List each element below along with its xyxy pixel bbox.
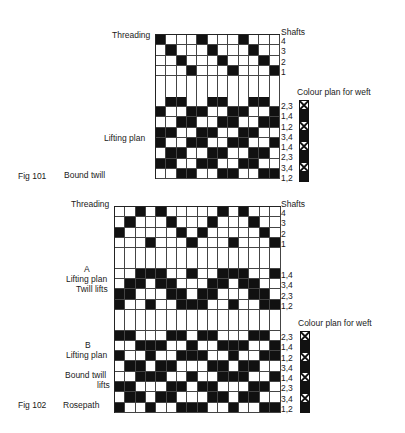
grid-cell-empty: [156, 238, 166, 248]
colour-black-swatch: [299, 151, 309, 161]
grid-cell-filled: [198, 331, 208, 341]
grid-cell-filled: [146, 403, 156, 413]
grid-cell-filled: [260, 351, 270, 361]
grid-cell-empty: [115, 217, 125, 227]
grid-cell-empty: [146, 258, 156, 268]
colour-black-swatch: [299, 131, 309, 141]
grid-cell-empty: [270, 207, 280, 217]
row-label: 1,2: [281, 404, 293, 414]
grid-cell-filled: [218, 97, 228, 107]
grid-cell-filled: [228, 138, 238, 148]
grid-cell-empty: [125, 300, 135, 310]
grid-cell-empty: [136, 238, 146, 248]
fig101-colour-plan: [299, 100, 309, 182]
grid-cell-empty: [249, 372, 259, 382]
grid-cell-empty: [249, 56, 259, 66]
grid-cell-filled: [136, 279, 146, 289]
grid-cell-empty: [218, 238, 228, 248]
grid-spacer-cell: [177, 310, 187, 320]
grid-cell-filled: [239, 372, 249, 382]
grid-cell-empty: [270, 56, 280, 66]
grid-cell-empty: [156, 331, 166, 341]
grid-spacer-cell: [239, 310, 249, 320]
grid-cell-empty: [249, 238, 259, 248]
grid-cell-filled: [197, 159, 207, 169]
grid-cell-filled: [218, 169, 228, 179]
row-label: 1,2: [281, 353, 293, 363]
fig102-shaft-labels: 4321: [281, 208, 286, 249]
grid-cell-filled: [249, 217, 259, 227]
grid-cell-empty: [177, 392, 187, 402]
grid-cell-empty: [260, 320, 270, 330]
grid-cell-filled: [125, 331, 135, 341]
colour-black-swatch: [300, 403, 310, 413]
grid-cell-filled: [136, 392, 146, 402]
grid-cell-empty: [208, 351, 218, 361]
grid-cell-filled: [249, 97, 259, 107]
grid-cell-filled: [260, 382, 270, 392]
grid-cell-empty: [208, 138, 218, 148]
grid-cell-empty: [208, 56, 218, 66]
grid-cell-empty: [270, 128, 280, 138]
grid-cell-filled: [270, 403, 280, 413]
grid-cell-empty: [198, 279, 208, 289]
grid-cell-empty: [177, 107, 187, 117]
grid-cell-empty: [249, 35, 259, 45]
grid-spacer-cell: [198, 248, 208, 258]
grid-cell-empty: [156, 382, 166, 392]
row-label: 1,4: [281, 373, 293, 383]
grid-cell-empty: [156, 66, 166, 76]
grid-cell-empty: [146, 279, 156, 289]
grid-cell-filled: [208, 148, 218, 158]
grid-cell-empty: [146, 207, 156, 217]
grid-spacer-cell: [125, 310, 135, 320]
grid-cell-empty: [260, 361, 270, 371]
grid-cell-filled: [249, 45, 259, 55]
grid-cell-empty: [198, 341, 208, 351]
grid-cell-empty: [249, 66, 259, 76]
grid-cell-empty: [208, 403, 218, 413]
grid-cell-empty: [136, 331, 146, 341]
colour-cross-swatch: [300, 393, 310, 403]
grid-cell-empty: [187, 56, 197, 66]
grid-cell-empty: [229, 279, 239, 289]
grid-cell-filled: [177, 56, 187, 66]
grid-cell-filled: [239, 361, 249, 371]
grid-cell-empty: [249, 320, 259, 330]
grid-spacer-cell: [125, 248, 135, 258]
grid-cell-filled: [239, 159, 249, 169]
grid-cell-empty: [270, 35, 280, 45]
grid-cell-filled: [218, 269, 228, 279]
grid-cell-filled: [270, 351, 280, 361]
grid-cell-empty: [156, 148, 166, 158]
grid-cell-empty: [115, 392, 125, 402]
fig101-lifting-plan-label: Lifting plan: [104, 133, 145, 143]
grid-cell-empty: [208, 238, 218, 248]
grid-cell-empty: [146, 217, 156, 227]
grid-cell-empty: [125, 320, 135, 330]
grid-cell-filled: [166, 97, 176, 107]
fig102-lift-b-labels: 2,31,41,23,41,42,33,41,2: [281, 332, 293, 414]
grid-cell-empty: [239, 382, 249, 392]
grid-cell-empty: [259, 107, 269, 117]
grid-cell-empty: [218, 331, 228, 341]
grid-spacer-cell: [270, 310, 280, 320]
grid-cell-empty: [198, 361, 208, 371]
grid-cell-empty: [239, 258, 249, 268]
grid-cell-empty: [208, 117, 218, 127]
grid-cell-empty: [270, 45, 280, 55]
grid-spacer-cell: [166, 86, 176, 96]
grid-cell-filled: [167, 289, 177, 299]
grid-cell-filled: [115, 331, 125, 341]
grid-cell-filled: [260, 300, 270, 310]
grid-cell-empty: [167, 341, 177, 351]
grid-cell-empty: [115, 269, 125, 279]
row-label: 2,3: [281, 152, 293, 162]
grid-cell-empty: [156, 117, 166, 127]
grid-cell-filled: [125, 382, 135, 392]
grid-cell-empty: [156, 97, 166, 107]
grid-cell-empty: [187, 258, 197, 268]
grid-cell-filled: [198, 351, 208, 361]
grid-cell-empty: [218, 138, 228, 148]
grid-cell-filled: [259, 97, 269, 107]
